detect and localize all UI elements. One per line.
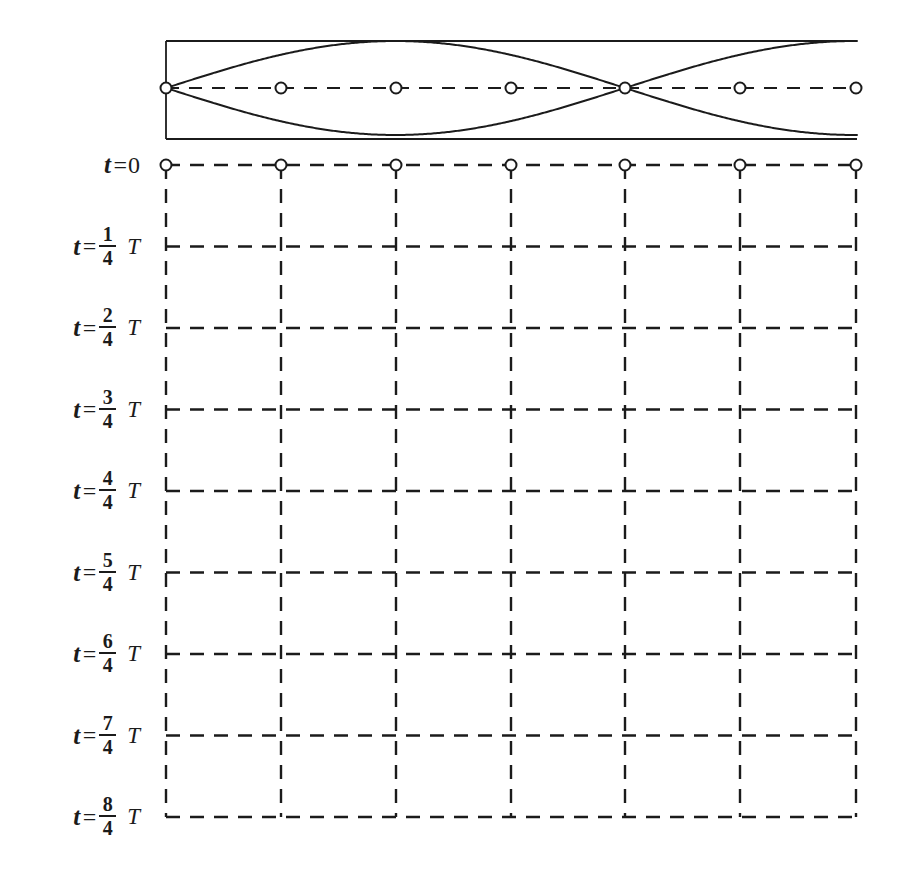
fraction-denominator: 4 xyxy=(101,736,115,757)
envelope-particle-marker xyxy=(506,83,517,94)
equals-sign: = xyxy=(111,152,128,179)
fraction-denominator: 4 xyxy=(101,573,115,594)
particle-marker xyxy=(276,160,287,171)
envelope-particle-marker xyxy=(735,83,746,94)
fraction: 44 xyxy=(99,468,116,512)
time-label-content: t=14T xyxy=(73,225,140,269)
fraction: 24 xyxy=(99,305,116,349)
particle-marker xyxy=(620,160,631,171)
time-variable-symbol: t xyxy=(73,640,80,668)
fraction-denominator: 4 xyxy=(101,654,115,675)
figure-root: t=0t=14Tt=24Tt=34Tt=44Tt=54Tt=64Tt=74Tt=… xyxy=(0,0,911,892)
time-label-content: t=64T xyxy=(73,632,140,676)
fraction-numerator: 8 xyxy=(101,794,115,815)
fraction-denominator: 4 xyxy=(101,247,115,268)
fraction: 74 xyxy=(99,713,116,757)
period-symbol: T xyxy=(127,397,140,423)
equals-sign: = xyxy=(81,233,98,260)
time-variable-symbol: t xyxy=(104,151,111,179)
particle-marker xyxy=(506,160,517,171)
particle-marker xyxy=(161,160,172,171)
envelope-particle-marker xyxy=(620,83,631,94)
time-variable-symbol: t xyxy=(73,559,80,587)
envelope-particle-marker xyxy=(851,83,862,94)
time-variable-symbol: t xyxy=(73,477,80,505)
fraction: 64 xyxy=(99,631,116,675)
equals-sign: = xyxy=(81,478,98,505)
envelope-particle-marker xyxy=(161,83,172,94)
equals-sign: = xyxy=(81,804,98,831)
time-label-content: t=44T xyxy=(73,469,140,513)
time-variable-symbol: t xyxy=(73,396,80,424)
fraction-numerator: 7 xyxy=(101,713,115,734)
time-variable-symbol: t xyxy=(73,722,80,750)
equals-sign: = xyxy=(81,722,98,749)
fraction-numerator: 5 xyxy=(101,550,115,571)
fraction-numerator: 6 xyxy=(101,631,115,652)
time-value: 0 xyxy=(128,152,140,179)
time-label-content: t=34T xyxy=(73,388,140,432)
time-label-content: t=54T xyxy=(73,551,140,595)
equals-sign: = xyxy=(81,641,98,668)
time-variable-symbol: t xyxy=(73,233,80,261)
time-variable-symbol: t xyxy=(73,803,80,831)
period-symbol: T xyxy=(127,804,140,830)
time-label-content: t=24T xyxy=(73,306,140,350)
fraction-numerator: 1 xyxy=(101,224,115,245)
period-symbol: T xyxy=(127,560,140,586)
fraction-denominator: 4 xyxy=(101,328,115,349)
fraction: 34 xyxy=(99,387,116,431)
fraction: 54 xyxy=(99,550,116,594)
fraction: 14 xyxy=(99,224,116,268)
fraction-denominator: 4 xyxy=(101,491,115,512)
equals-sign: = xyxy=(81,315,98,342)
fraction-denominator: 4 xyxy=(101,410,115,431)
period-symbol: T xyxy=(127,723,140,749)
envelope-particle-marker xyxy=(276,83,287,94)
equals-sign: = xyxy=(81,396,98,423)
period-symbol: T xyxy=(127,234,140,260)
period-symbol: T xyxy=(127,315,140,341)
period-symbol: T xyxy=(127,478,140,504)
equals-sign: = xyxy=(81,559,98,586)
fraction-numerator: 2 xyxy=(101,305,115,326)
fraction-numerator: 4 xyxy=(101,468,115,489)
time-variable-symbol: t xyxy=(73,314,80,342)
time-label-content: t=84T xyxy=(73,795,140,839)
time-evolution-grid xyxy=(166,165,856,817)
time-label-content: t=74T xyxy=(73,714,140,758)
time-label-content: t=0 xyxy=(104,151,140,179)
particle-marker xyxy=(735,160,746,171)
standing-wave-envelope xyxy=(161,41,862,139)
envelope-particle-marker xyxy=(391,83,402,94)
fraction-numerator: 3 xyxy=(101,387,115,408)
period-symbol: T xyxy=(127,641,140,667)
particle-marker xyxy=(851,160,862,171)
diagram-canvas xyxy=(0,0,911,892)
fraction: 84 xyxy=(99,794,116,838)
fraction-denominator: 4 xyxy=(101,817,115,838)
particle-marker xyxy=(391,160,402,171)
